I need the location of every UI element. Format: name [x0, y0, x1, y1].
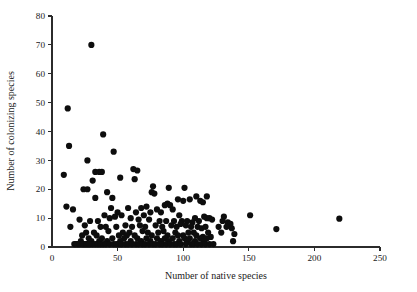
data-point [109, 235, 115, 241]
chart-canvas: 01020304050607080 050100150200250 Number… [0, 0, 417, 292]
data-point [137, 222, 143, 228]
data-point [158, 209, 164, 215]
data-point [163, 218, 169, 224]
data-point [109, 195, 115, 201]
data-point [336, 216, 342, 222]
data-point [87, 218, 93, 224]
data-point [63, 203, 69, 209]
data-point [82, 222, 88, 228]
data-point [177, 221, 183, 227]
data-point [67, 224, 73, 230]
data-point [149, 232, 155, 238]
data-point [132, 176, 138, 182]
data-point [155, 229, 161, 235]
data-point [66, 143, 72, 149]
data-point [128, 215, 134, 221]
data-point [101, 212, 107, 218]
data-point [95, 218, 101, 224]
data-point [84, 186, 90, 192]
data-point [181, 185, 187, 191]
data-point [79, 232, 85, 238]
y-tick-label: 70 [36, 40, 46, 50]
data-point [146, 216, 152, 222]
data-point [133, 209, 139, 215]
data-point [175, 196, 181, 202]
data-point [92, 195, 98, 201]
data-point [196, 218, 202, 224]
data-point [229, 225, 235, 231]
data-point [200, 199, 206, 205]
y-tick-label: 60 [36, 69, 46, 79]
data-point [216, 224, 222, 230]
data-point [210, 241, 216, 247]
data-point [150, 183, 156, 189]
x-axis-ticks: 050100150200250 [50, 247, 388, 263]
x-tick-label: 100 [176, 253, 190, 263]
y-tick-label: 30 [36, 156, 46, 166]
y-tick-label: 10 [36, 213, 46, 223]
data-point [147, 209, 153, 215]
scatter-plot-figure: 01020304050607080 050100150200250 Number… [0, 0, 417, 292]
data-point [113, 224, 119, 230]
y-tick-label: 0 [40, 242, 45, 252]
data-point [141, 212, 147, 218]
x-tick-label: 200 [308, 253, 322, 263]
data-point [230, 238, 236, 244]
data-point [111, 149, 117, 155]
data-point [151, 190, 157, 196]
y-axis-title: Number of colonizing species [5, 71, 16, 191]
data-point [153, 222, 159, 228]
data-point [94, 232, 100, 238]
data-point [76, 216, 82, 222]
data-point [188, 224, 194, 230]
data-point [88, 42, 94, 48]
axes [52, 16, 380, 247]
data-point [112, 214, 118, 220]
x-axis-title: Number of native species [165, 270, 267, 281]
data-point [176, 212, 182, 218]
y-axis-ticks: 01020304050607080 [36, 11, 52, 252]
data-point [204, 193, 210, 199]
data-point [143, 203, 149, 209]
data-point [84, 157, 90, 163]
y-tick-label: 40 [36, 127, 46, 137]
data-point [219, 218, 225, 224]
data-point [273, 226, 279, 232]
data-point [247, 212, 253, 218]
data-point [70, 206, 76, 212]
x-tick-label: 250 [373, 253, 387, 263]
data-point [108, 205, 114, 211]
data-point [129, 224, 135, 230]
data-point [187, 196, 193, 202]
data-point [223, 224, 229, 230]
data-point [138, 205, 144, 211]
y-tick-label: 20 [36, 184, 46, 194]
data-point [61, 172, 67, 178]
data-point [104, 189, 110, 195]
data-point [118, 212, 124, 218]
data-point [105, 228, 111, 234]
data-point [134, 167, 140, 173]
x-tick-label: 150 [242, 253, 256, 263]
data-point [139, 228, 145, 234]
y-tick-label: 80 [36, 11, 46, 21]
data-point [65, 105, 71, 111]
data-point [99, 169, 105, 175]
data-point [170, 206, 176, 212]
x-tick-label: 50 [113, 253, 123, 263]
data-point [180, 198, 186, 204]
data-point [166, 185, 172, 191]
y-tick-label: 50 [36, 98, 46, 108]
data-point [116, 232, 122, 238]
data-point [107, 215, 113, 221]
data-point [117, 175, 123, 181]
data-point [168, 222, 174, 228]
data-point [202, 224, 208, 230]
data-point [90, 177, 96, 183]
data-point [86, 241, 92, 247]
data-points-layer [61, 42, 343, 247]
data-point [122, 222, 128, 228]
x-tick-label: 0 [50, 253, 55, 263]
data-point [125, 205, 131, 211]
data-point [209, 216, 215, 222]
